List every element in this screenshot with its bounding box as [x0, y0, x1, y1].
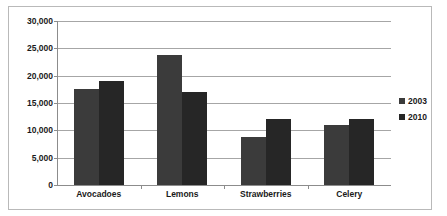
y-axis-tick-labels: 30,00025,00020,00015,00010,0005,0000 [9, 21, 53, 185]
y-axis-tick-mark [54, 21, 58, 22]
x-axis-tick-labels: AvocadoesLemonsStrawberriesCelery [57, 189, 391, 205]
bar-2010-celery[interactable] [349, 119, 374, 185]
legend-swatch-icon [399, 114, 405, 120]
bar-group [224, 21, 308, 185]
bar-2010-avocadoes[interactable] [99, 81, 124, 185]
y-axis-tick-mark [54, 130, 58, 131]
bar-2003-avocadoes[interactable] [74, 89, 99, 185]
bar-2003-celery[interactable] [324, 125, 349, 185]
legend-label: 2010 [408, 112, 427, 122]
y-axis-tick-mark [54, 185, 58, 186]
x-axis-tick-label: Strawberries [240, 189, 292, 199]
y-axis-tick-mark [54, 103, 58, 104]
y-axis-tick-mark [54, 158, 58, 159]
y-axis-tick-mark [54, 76, 58, 77]
bar-2010-strawberries[interactable] [266, 119, 291, 185]
y-axis-tick-label: 5,000 [9, 153, 53, 163]
bar-2003-strawberries[interactable] [241, 137, 266, 185]
y-axis-tick-mark [54, 48, 58, 49]
legend-item-2010[interactable]: 2010 [399, 109, 443, 125]
bar-group [141, 21, 225, 185]
chart-panel: 30,00025,00020,00015,00010,0005,0000 Avo… [8, 6, 432, 210]
x-axis-tick-label: Celery [336, 189, 362, 199]
bar-2010-lemons[interactable] [182, 92, 207, 185]
bar-2003-lemons[interactable] [157, 55, 182, 185]
y-axis-tick-label: 30,000 [9, 16, 53, 26]
y-axis-tick-label: 25,000 [9, 43, 53, 53]
x-axis-tick-label: Avocadoes [76, 189, 121, 199]
legend-item-2003[interactable]: 2003 [399, 93, 443, 109]
y-axis-tick-label: 10,000 [9, 125, 53, 135]
chart-legend: 20032010 [399, 93, 443, 125]
bar-group [57, 21, 141, 185]
x-axis-tick-label: Lemons [166, 189, 199, 199]
y-axis-tick-label: 0 [9, 180, 53, 190]
bar-group [308, 21, 392, 185]
y-axis-tick-label: 15,000 [9, 98, 53, 108]
plot-area [57, 21, 391, 185]
legend-swatch-icon [399, 98, 405, 104]
legend-label: 2003 [408, 96, 427, 106]
y-axis-tick-label: 20,000 [9, 71, 53, 81]
